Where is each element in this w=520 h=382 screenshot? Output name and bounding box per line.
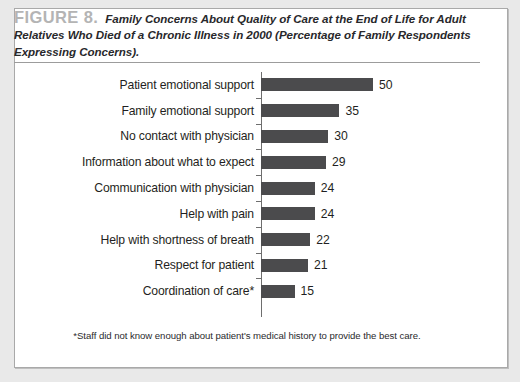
bar-row: Communication with physician24	[0, 175, 492, 201]
bar-track: 24	[261, 201, 492, 227]
bar-value-label: 50	[373, 78, 393, 92]
bar-category-label: Respect for patient	[0, 258, 261, 272]
bar-row: Patient emotional support50	[0, 72, 492, 98]
bar-category-label: Patient emotional support	[0, 78, 261, 92]
axis-tick	[256, 98, 261, 99]
figure-number-label: FIGURE 8.	[14, 8, 105, 26]
bar-track: 24	[261, 175, 492, 201]
bar-track: 29	[261, 149, 492, 175]
bar-value-label: 29	[326, 155, 346, 169]
bar-category-label: Help with shortness of breath	[0, 233, 261, 247]
bar-value-label: 24	[315, 181, 335, 195]
bar-track: 21	[261, 253, 492, 279]
bar-track: 22	[261, 227, 492, 253]
bar-track: 35	[261, 98, 492, 124]
bar-row: Respect for patient21	[0, 253, 492, 279]
axis-tick	[256, 175, 261, 176]
bar-row: Coordination of care*15	[0, 278, 492, 304]
bar-value-label: 35	[339, 104, 359, 118]
bar-row: Information about what to expect29	[0, 149, 492, 175]
bar-chart: Patient emotional support50Family emotio…	[0, 72, 492, 317]
bar-rows-container: Patient emotional support50Family emotio…	[0, 72, 492, 304]
bar-value-label: 15	[295, 284, 315, 298]
bar-category-label: Help with pain	[0, 207, 261, 221]
bar-category-label: Family emotional support	[0, 104, 261, 118]
bar-value-label: 21	[308, 258, 328, 272]
title-divider	[14, 62, 480, 63]
bar	[261, 182, 315, 195]
bar-row: Help with pain24	[0, 201, 492, 227]
bar	[261, 285, 295, 298]
bar-value-label: 30	[328, 129, 348, 143]
figure-footnote: *Staff did not know enough about patient…	[14, 330, 480, 341]
bar	[261, 233, 310, 246]
axis-tick	[256, 201, 261, 202]
figure-caption-block: FIGURE 8.Family Concerns About Quality o…	[14, 9, 480, 61]
bar	[261, 130, 328, 143]
bar-track: 30	[261, 124, 492, 150]
bar-category-label: Communication with physician	[0, 181, 261, 195]
axis-tick	[256, 278, 261, 279]
bar-track: 15	[261, 278, 492, 304]
bar	[261, 207, 315, 220]
bar-value-label: 24	[315, 207, 335, 221]
axis-tick	[256, 149, 261, 150]
axis-tick	[256, 227, 261, 228]
bar-category-label: Coordination of care*	[0, 284, 261, 298]
bar-row: No contact with physician30	[0, 124, 492, 150]
bar-category-label: Information about what to expect	[0, 155, 261, 169]
bar	[261, 259, 308, 272]
bar	[261, 156, 326, 169]
bar-category-label: No contact with physician	[0, 129, 261, 143]
bar-value-label: 22	[310, 233, 330, 247]
axis-tick	[256, 124, 261, 125]
bar-track: 50	[261, 72, 492, 98]
bar-row: Help with shortness of breath22	[0, 227, 492, 253]
bar-row: Family emotional support35	[0, 98, 492, 124]
bar	[261, 104, 339, 117]
axis-tick	[256, 253, 261, 254]
figure-caption-text: FIGURE 8.Family Concerns About Quality o…	[14, 9, 480, 61]
bar	[261, 78, 373, 91]
